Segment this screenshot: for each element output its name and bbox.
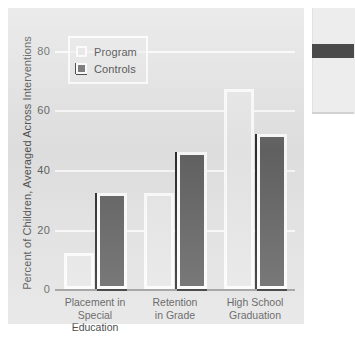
category-label-graduation-line2: Graduation [215, 309, 295, 322]
light-square-swatch-icon [76, 46, 87, 57]
bar-chart-panel: Percent of Children, Averaged Across Int… [8, 8, 304, 324]
category-label-retention-line2: in Grade [135, 309, 215, 322]
chart-legend: Program Controls [68, 36, 148, 84]
category-label-graduation: High School Graduation [215, 296, 295, 334]
bar-program-retention[interactable] [144, 193, 174, 289]
legend-item-program[interactable]: Program [76, 43, 137, 60]
x-axis-baseline [55, 289, 295, 291]
category-label-placement-line2: Special Education [55, 309, 135, 334]
bar-program-graduation[interactable] [224, 89, 254, 289]
bar-program-placement[interactable] [64, 253, 94, 289]
y-tick-label-40: 40 [37, 164, 50, 176]
adjacent-panel-fragment [312, 8, 355, 114]
dark-square-swatch-icon [76, 63, 87, 74]
adjacent-panel-dark-bar [312, 44, 354, 58]
bar-group-retention-in-grade [144, 35, 207, 289]
legend-label-controls: Controls [94, 63, 136, 75]
category-label-placement: Placement in Special Education [55, 296, 135, 334]
category-label-retention: Retention in Grade [135, 296, 215, 334]
y-tick-label-60: 60 [37, 104, 50, 116]
category-label-retention-line1: Retention [135, 296, 215, 309]
y-tick-label-20: 20 [37, 224, 50, 236]
bar-controls-retention[interactable] [177, 152, 207, 289]
bar-group-high-school-graduation [224, 35, 287, 289]
y-tick-label-0: 0 [44, 283, 50, 295]
legend-label-program: Program [94, 46, 137, 58]
y-axis-title-text: Percent of Children, Averaged Across Int… [21, 36, 33, 290]
category-label-placement-line1: Placement in [55, 296, 135, 309]
y-tick-label-80: 80 [37, 45, 50, 57]
y-axis-title: Percent of Children, Averaged Across Int… [19, 35, 35, 291]
category-label-graduation-line1: High School [215, 296, 295, 309]
adjacent-panel-edge [312, 112, 354, 114]
legend-item-controls[interactable]: Controls [76, 60, 137, 77]
x-axis-category-labels: Placement in Special Education Retention… [55, 296, 295, 334]
bar-controls-placement[interactable] [97, 193, 127, 289]
bar-controls-graduation[interactable] [257, 134, 287, 289]
